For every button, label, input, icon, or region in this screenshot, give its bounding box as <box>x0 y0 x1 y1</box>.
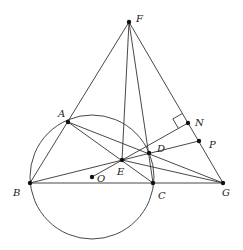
label-g: G <box>222 187 230 198</box>
label-n: N <box>194 117 205 128</box>
segment-ac <box>68 122 153 183</box>
point-n <box>186 121 190 125</box>
geometry-diagram: FABCDEONPG <box>0 0 243 250</box>
segment-fe <box>122 22 129 160</box>
segments <box>30 22 223 183</box>
label-p: P <box>208 139 216 150</box>
label-d: D <box>156 143 165 154</box>
right-angle-icon <box>173 114 183 129</box>
point-e <box>120 158 124 162</box>
label-o: O <box>97 173 105 184</box>
label-a: A <box>57 108 65 119</box>
point-a <box>66 120 70 124</box>
point-f <box>127 20 131 24</box>
label-f: F <box>135 13 144 24</box>
segment-fb <box>30 22 129 183</box>
label-b: B <box>12 187 20 198</box>
label-e: E <box>116 166 125 177</box>
point-d <box>147 151 151 155</box>
segment-fc <box>129 22 153 183</box>
point-g <box>221 181 225 185</box>
segment-fg <box>129 22 223 183</box>
segment-bp <box>30 141 199 183</box>
point-p <box>197 139 201 143</box>
point-c <box>151 181 155 185</box>
point-o <box>90 175 94 179</box>
right-angle-marker <box>173 114 183 129</box>
label-c: C <box>158 190 166 201</box>
points <box>28 20 225 185</box>
point-b <box>28 181 32 185</box>
